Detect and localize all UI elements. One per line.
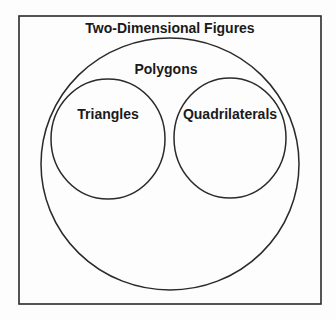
universe-label: Two-Dimensional Figures <box>85 20 255 36</box>
polygons-label: Polygons <box>134 61 197 77</box>
venn-diagram: Two-Dimensional Figures Polygons Triangl… <box>0 0 336 320</box>
quadrilaterals-label: Quadrilaterals <box>183 106 277 122</box>
triangles-label: Triangles <box>77 106 139 122</box>
universe-rectangle <box>19 16 321 304</box>
